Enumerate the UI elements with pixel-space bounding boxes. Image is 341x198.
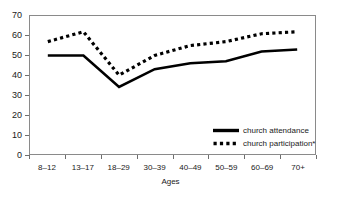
series-line bbox=[48, 50, 297, 87]
y-axis-labels: 010203040506070 bbox=[0, 0, 26, 198]
y-tick-label: 10 bbox=[12, 131, 22, 140]
y-tick-label: 70 bbox=[12, 11, 22, 20]
x-tick-mark bbox=[173, 155, 174, 159]
x-tick-label: 18–29 bbox=[108, 163, 130, 172]
x-tick-mark bbox=[208, 155, 209, 159]
legend-label-church-participation: church participation* bbox=[243, 139, 315, 148]
dotted-line-key bbox=[213, 139, 239, 148]
legend-item-church-participation: church participation* bbox=[213, 139, 315, 148]
y-tick-label: 60 bbox=[12, 31, 22, 40]
chart-figure: 010203040506070 8–1213–1718–2930–3940–49… bbox=[0, 0, 341, 198]
legend-item-church-attendance: church attendance bbox=[213, 126, 315, 135]
x-tick-mark bbox=[101, 155, 102, 159]
x-tick-mark bbox=[280, 155, 281, 159]
x-tick-label: 70+ bbox=[291, 163, 305, 172]
x-tick-label: 8–12 bbox=[38, 163, 56, 172]
x-tick-mark bbox=[29, 155, 30, 159]
series-line bbox=[48, 32, 297, 75]
solid-line-key bbox=[213, 126, 239, 135]
x-tick-label: 13–17 bbox=[72, 163, 94, 172]
y-tick-label: 0 bbox=[17, 151, 22, 160]
y-tick-label: 30 bbox=[12, 91, 22, 100]
x-tick-label: 50–59 bbox=[215, 163, 237, 172]
legend-label-church-attendance: church attendance bbox=[243, 126, 309, 135]
y-tick-label: 20 bbox=[12, 111, 22, 120]
x-tick-mark bbox=[137, 155, 138, 159]
chart-legend: church attendance church participation* bbox=[213, 126, 315, 148]
x-tick-mark bbox=[244, 155, 245, 159]
x-axis-title: Ages bbox=[0, 177, 341, 186]
y-tick-label: 50 bbox=[12, 51, 22, 60]
x-tick-mark bbox=[316, 155, 317, 159]
y-tick-label: 40 bbox=[12, 71, 22, 80]
x-tick-label: 30–39 bbox=[143, 163, 165, 172]
x-tick-mark bbox=[65, 155, 66, 159]
x-tick-label: 60–69 bbox=[251, 163, 273, 172]
x-tick-label: 40–49 bbox=[179, 163, 201, 172]
